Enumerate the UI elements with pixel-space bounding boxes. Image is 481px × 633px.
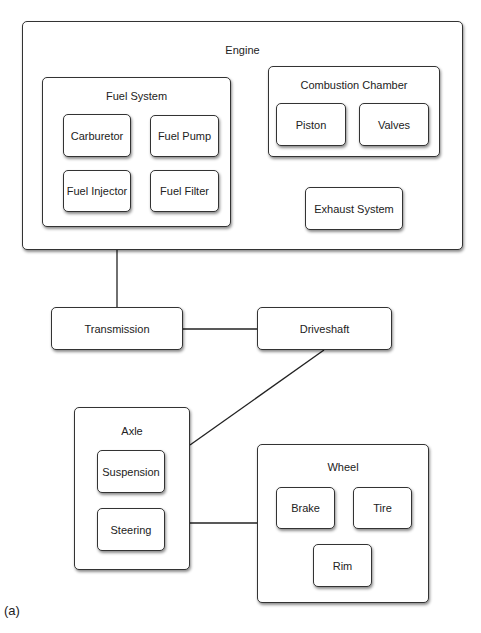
connector-driveshaft-to-axle	[190, 350, 324, 445]
wheel-title: Wheel	[258, 461, 428, 473]
suspension-node: Suspension	[97, 450, 165, 493]
transmission-node: Transmission	[51, 307, 183, 350]
engine-title: Engine	[23, 44, 462, 56]
figure-caption: (a)	[4, 603, 20, 618]
exhaust-system-node: Exhaust System	[305, 187, 403, 230]
combustion-chamber-title: Combustion Chamber	[269, 79, 439, 91]
steering-node: Steering	[97, 508, 165, 551]
fuel-system-title: Fuel System	[43, 90, 230, 102]
fuel-pump-node: Fuel Pump	[150, 115, 219, 157]
rim-node: Rim	[313, 544, 372, 587]
valves-node: Valves	[359, 103, 429, 146]
carburetor-node: Carburetor	[63, 114, 131, 157]
driveshaft-node: Driveshaft	[257, 307, 392, 350]
fuel-filter-node: Fuel Filter	[150, 170, 219, 212]
tire-node: Tire	[353, 487, 412, 529]
brake-node: Brake	[276, 487, 335, 529]
axle-title: Axle	[75, 425, 189, 437]
fuel-injector-node: Fuel Injector	[63, 170, 131, 212]
piston-node: Piston	[276, 103, 346, 146]
